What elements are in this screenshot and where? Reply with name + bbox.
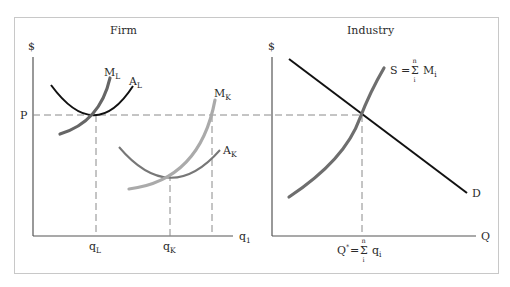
svg-text:i: i: [414, 76, 416, 84]
supply-curve: [289, 68, 384, 197]
AK-label: AK: [222, 144, 237, 159]
industry-x-axis-label: Q: [481, 230, 490, 243]
svg-text:i: i: [363, 256, 365, 264]
industry-title: Industry: [347, 24, 395, 37]
svg-text:qi: qi: [372, 244, 382, 259]
svg-text:Q*: Q*: [337, 243, 350, 257]
AL-curve: [51, 85, 133, 115]
svg-text:S =: S =: [390, 64, 410, 77]
AL-label: AL: [128, 75, 142, 90]
equilibrium-quantity-label: Q* = Σ n i qi: [337, 237, 382, 264]
svg-text:=: =: [350, 244, 359, 257]
svg-text:n: n: [413, 57, 417, 65]
AK-curve: [119, 147, 220, 178]
firm-y-axis-label: $: [28, 40, 35, 53]
firm-panel: Firm $ P ML AL MK AK qL qK q1: [20, 24, 362, 255]
figure-frame: [15, 18, 499, 274]
competitive-equilibrium-diagram: Firm $ P ML AL MK AK qL qK q1 Industry $: [0, 0, 510, 287]
svg-text:Mi: Mi: [423, 64, 437, 79]
industry-panel: Industry $ S = Σ n i Mi D Q Q* = Σ n i q…: [268, 24, 490, 264]
MK-curve: [129, 100, 215, 189]
svg-text:n: n: [362, 237, 366, 245]
firm-x-axis-label: q1: [239, 230, 251, 245]
price-label: P: [20, 109, 28, 122]
supply-label: S = Σ n i Mi: [390, 57, 437, 84]
ML-label: ML: [104, 66, 120, 81]
MK-label: MK: [214, 87, 231, 102]
qK-tick-label: qK: [163, 240, 176, 255]
qL-tick-label: qL: [89, 240, 101, 255]
industry-y-axis-label: $: [268, 40, 275, 53]
firm-title: Firm: [110, 24, 137, 37]
ML-curve: [60, 78, 110, 134]
demand-label: D: [472, 187, 481, 200]
